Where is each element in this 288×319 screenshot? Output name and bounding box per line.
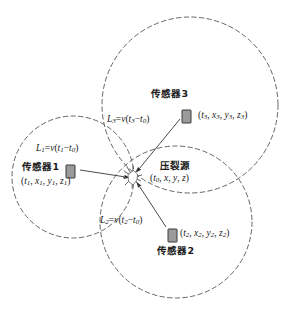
arrow-sensor1-to-source	[80, 170, 129, 178]
label-sensor1-coords: (t1, x1, y1, z1)	[21, 177, 70, 187]
localization-diagram: L1=v(t1−t0) 传感器1 (t1, x1, y1, z1) 传感器3 L…	[0, 0, 288, 319]
sensor3-icon	[182, 110, 191, 123]
diagram-canvas	[0, 0, 288, 319]
label-source: 压裂源	[160, 161, 191, 171]
label-source-coords: (t0, x, y, z)	[150, 174, 189, 184]
label-distance-L1: L1=v(t1−t0)	[36, 144, 78, 154]
label-sensor3: 传感器3	[151, 89, 188, 99]
label-sensor1: 传感器1	[22, 162, 59, 172]
label-distance-L3: L3=v(t3−t0)	[107, 115, 149, 125]
label-distance-L2: L2=v(t2−t0)	[100, 216, 142, 226]
sensor2-icon	[168, 229, 177, 242]
label-sensor2-coords: (t2, x2, y2, z2)	[180, 229, 229, 239]
label-sensor2: 传感器2	[157, 246, 194, 256]
label-sensor3-coords: (t3, x3, y3, z3)	[198, 111, 247, 121]
